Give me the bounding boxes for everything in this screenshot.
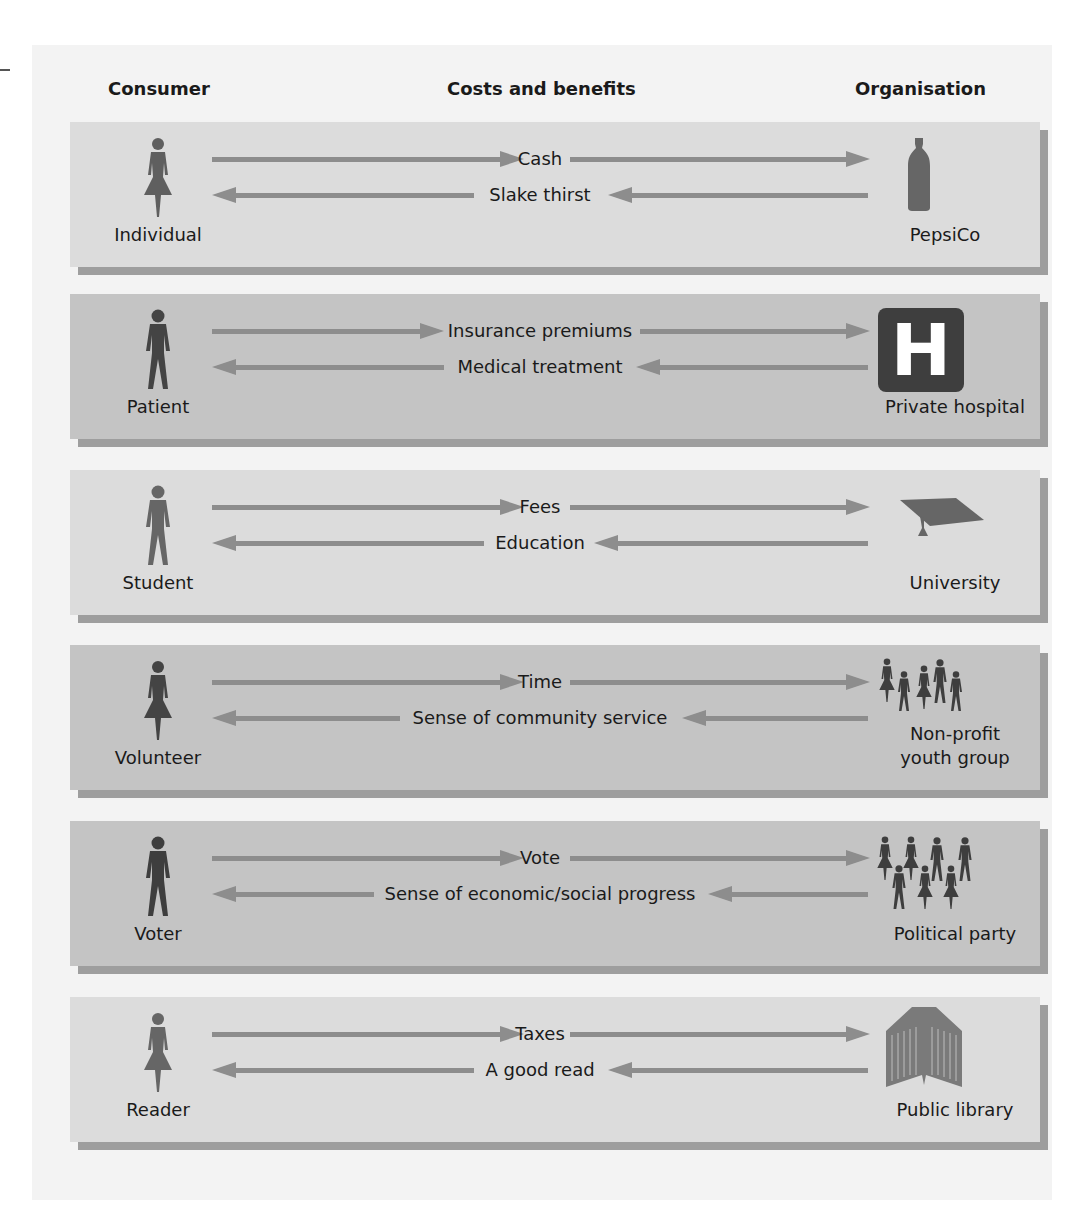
benefit-arrow-right-segment <box>630 193 868 198</box>
benefit-arrow-left-segment <box>234 193 474 198</box>
arrow-right-head <box>846 850 870 866</box>
page-margin-tick <box>0 69 10 71</box>
arrow-left-head <box>212 710 236 726</box>
benefit-arrow-right-segment <box>630 1068 868 1073</box>
arrow-left-head <box>608 1062 632 1078</box>
arrow-right-head <box>846 499 870 515</box>
cost-arrow-left-segment <box>212 329 422 334</box>
cost-arrow-left-segment <box>212 680 502 685</box>
organisation-label-line-1: Non-profit <box>875 723 1035 745</box>
woman-icon <box>138 1012 178 1092</box>
arrow-right-head <box>846 674 870 690</box>
benefit-label: Sense of community service <box>413 707 668 728</box>
cost-label: Time <box>518 671 562 692</box>
man-icon <box>138 309 178 389</box>
cost-arrow-right-segment <box>570 157 850 162</box>
panel: Reader Taxes A good read Public library <box>70 997 1040 1142</box>
woman-icon <box>138 137 178 217</box>
arrow-left-head <box>594 535 618 551</box>
benefit-label: A good read <box>485 1059 594 1080</box>
woman-icon <box>138 660 178 740</box>
panel: Individual Cash Slake thirst PepsiCo <box>70 122 1040 267</box>
benefit-label: Sense of economic/social progress <box>385 883 696 904</box>
man-icon <box>138 485 178 565</box>
benefit-label: Slake thirst <box>489 184 590 205</box>
benefit-arrow-left-segment <box>234 365 444 370</box>
mortarboard-icon <box>900 498 986 538</box>
cost-arrow-left-segment <box>212 856 502 861</box>
panel: Patient Insurance premiums Medical treat… <box>70 294 1040 439</box>
exchange-row-university: Student Fees Education University <box>70 470 1040 615</box>
arrow-left-head <box>608 187 632 203</box>
exchange-row-political-party: Voter Vote Sense of economic/social prog… <box>70 821 1040 966</box>
arrow-left-head <box>212 886 236 902</box>
header-organisation: Organisation <box>855 78 986 99</box>
benefit-label: Medical treatment <box>458 356 623 377</box>
organisation-label: Private hospital <box>875 396 1035 418</box>
header-consumer: Consumer <box>108 78 210 99</box>
cost-arrow-left-segment <box>212 505 502 510</box>
organisation-label: University <box>875 572 1035 594</box>
exchange-row-public-library: Reader Taxes A good read Public library <box>70 997 1040 1142</box>
cost-label: Vote <box>520 847 560 868</box>
benefit-arrow-right-segment <box>704 716 868 721</box>
consumer-label: Reader <box>90 1099 226 1120</box>
cost-arrow-left-segment <box>212 157 502 162</box>
benefit-arrow-left-segment <box>234 541 484 546</box>
arrow-left-head <box>212 187 236 203</box>
organisation-label-line-2: youth group <box>875 747 1035 769</box>
header-costs-and-benefits: Costs and benefits <box>447 78 636 99</box>
cost-label: Insurance premiums <box>448 320 632 341</box>
consumer-label: Voter <box>90 923 226 944</box>
arrow-right-head <box>420 323 444 339</box>
arrow-right-head <box>846 323 870 339</box>
cost-arrow-right-segment <box>640 329 850 334</box>
benefit-label: Education <box>495 532 585 553</box>
arrow-left-head <box>636 359 660 375</box>
benefit-arrow-right-segment <box>616 541 868 546</box>
benefit-arrow-left-segment <box>234 716 400 721</box>
arrow-left-head <box>212 359 236 375</box>
arrow-right-head <box>846 1026 870 1042</box>
arrow-left-head <box>212 535 236 551</box>
man-icon <box>138 836 178 916</box>
cost-label: Cash <box>518 148 562 169</box>
cost-arrow-right-segment <box>570 1032 850 1037</box>
consumer-label: Individual <box>90 224 226 245</box>
benefit-arrow-right-segment <box>730 892 868 897</box>
consumer-label: Student <box>90 572 226 593</box>
cost-arrow-right-segment <box>570 680 850 685</box>
arrow-left-head <box>708 886 732 902</box>
panel: Volunteer Time Sense of community servic… <box>70 645 1040 790</box>
benefit-arrow-left-segment <box>234 1068 474 1073</box>
open-book-icon <box>884 1005 964 1091</box>
arrow-left-head <box>212 1062 236 1078</box>
cost-label: Taxes <box>515 1023 565 1044</box>
benefit-arrow-right-segment <box>658 365 868 370</box>
panel: Voter Vote Sense of economic/social prog… <box>70 821 1040 966</box>
cost-label: Fees <box>520 496 561 517</box>
organisation-label: PepsiCo <box>850 224 1040 246</box>
arrow-left-head <box>682 710 706 726</box>
organisation-label: Political party <box>875 923 1035 945</box>
benefit-arrow-left-segment <box>234 892 374 897</box>
group-of-people-icon <box>876 657 968 717</box>
organisation-label: Public library <box>875 1099 1035 1121</box>
exchange-row-pepsico: Individual Cash Slake thirst PepsiCo <box>70 122 1040 267</box>
consumer-label: Patient <box>90 396 226 417</box>
bottle-icon <box>906 138 932 212</box>
crowd-icon <box>874 835 978 919</box>
panel: Student Fees Education University <box>70 470 1040 615</box>
cost-arrow-right-segment <box>570 505 850 510</box>
exchange-row-hospital: Patient Insurance premiums Medical treat… <box>70 294 1040 439</box>
arrow-right-head <box>846 151 870 167</box>
cost-arrow-right-segment <box>570 856 850 861</box>
consumer-label: Volunteer <box>90 747 226 768</box>
hospital-icon: H <box>878 308 964 392</box>
exchange-row-youth-group: Volunteer Time Sense of community servic… <box>70 645 1040 790</box>
cost-arrow-left-segment <box>212 1032 502 1037</box>
